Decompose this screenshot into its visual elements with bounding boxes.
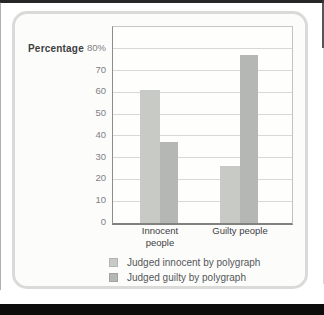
- category-label: Guilty people: [208, 225, 272, 237]
- legend: Judged innocent by polygraphJudged guilt…: [109, 255, 260, 285]
- y-tick-label: 60: [58, 86, 106, 96]
- y-tick-label: 10: [58, 195, 106, 205]
- legend-label: Judged innocent by polygraph: [127, 257, 260, 268]
- legend-swatch-icon: [109, 258, 118, 267]
- gridline: [113, 70, 292, 71]
- bar-guilty-people-s1: [220, 166, 240, 223]
- bar-guilty-people-s2: [240, 55, 258, 223]
- y-tick-label: 20: [58, 173, 106, 183]
- left-edge-line: [0, 2, 1, 290]
- legend-item: Judged guilty by polygraph: [109, 270, 260, 285]
- legend-label: Judged guilty by polygraph: [127, 272, 246, 283]
- y-tick-label: 0: [58, 217, 106, 227]
- legend-item: Judged innocent by polygraph: [109, 255, 260, 270]
- y-tick-label: 40: [58, 130, 106, 140]
- bar-innocent-people-s2: [160, 142, 178, 223]
- y-tick-label: 80%: [58, 43, 106, 53]
- y-tick-label: 30: [58, 152, 106, 162]
- bottom-edge-strip: [0, 304, 324, 315]
- category-label: Innocent people: [128, 225, 192, 248]
- bar-innocent-people-s1: [140, 90, 160, 223]
- y-tick-label: 50: [58, 108, 106, 118]
- legend-swatch-icon: [109, 273, 118, 282]
- top-edge-strip: [0, 0, 324, 3]
- y-tick-label: 70: [58, 65, 106, 75]
- plot-area: [112, 26, 293, 225]
- gridline: [113, 48, 292, 49]
